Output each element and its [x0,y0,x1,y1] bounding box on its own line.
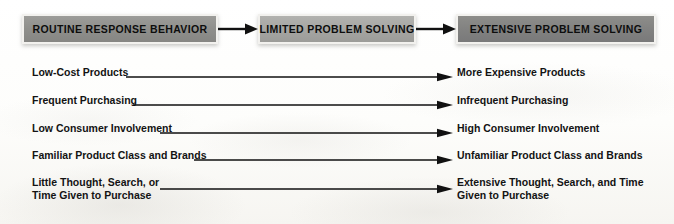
attribute-arrow [160,180,453,190]
stage-box-limited-problem-solving[interactable]: LIMITED PROBLEM SOLVING [258,14,416,44]
attribute-left-label: Frequent Purchasing [32,94,137,107]
connector-routine-to-limited [218,22,258,36]
stage-label: ROUTINE RESPONSE BEHAVIOR [33,24,208,35]
attribute-left-label: Familiar Product Class and Brands [32,149,206,162]
problem-solving-continuum-diagram: ROUTINE RESPONSE BEHAVIOR LIMITED PROBLE… [0,0,674,224]
arrow-right-icon [416,22,456,36]
attribute-row: Frequent Purchasing Infrequent Purchasin… [0,94,674,110]
attribute-row: Low-Cost Products More Expensive Product… [0,66,674,82]
stage-box-extensive-problem-solving[interactable]: EXTENSIVE PROBLEM SOLVING [456,14,656,44]
arrow-right-icon [218,22,258,36]
arrow-right-icon [133,100,453,110]
stage-box-routine-response-behavior[interactable]: ROUTINE RESPONSE BEHAVIOR [22,14,218,44]
attribute-arrow [194,151,453,161]
attribute-left-label: Low-Cost Products [32,66,128,79]
stage-label: EXTENSIVE PROBLEM SOLVING [470,24,643,35]
arrow-right-icon [160,128,453,138]
stage-label: LIMITED PROBLEM SOLVING [260,24,415,35]
attribute-right-label: More Expensive Products [457,66,585,79]
attribute-row: Familiar Product Class and Brands Unfami… [0,149,674,165]
arrow-right-icon [160,184,453,194]
stage-band: ROUTINE RESPONSE BEHAVIOR LIMITED PROBLE… [0,0,674,58]
connector-limited-to-extensive [416,22,456,36]
attribute-left-label: Low Consumer Involvement [32,122,172,135]
attribute-row: Little Thought, Search, or Time Given to… [0,178,674,208]
attribute-arrow [126,68,453,78]
attribute-rows: Low-Cost Products More Expensive Product… [0,58,674,224]
attribute-arrow [160,124,453,134]
attribute-right-label: Extensive Thought, Search, and Time Give… [457,176,644,201]
attribute-arrow [133,96,453,106]
attribute-left-label: Little Thought, Search, or Time Given to… [32,176,159,201]
attribute-right-label: Infrequent Purchasing [457,94,568,107]
arrow-right-icon [126,72,453,82]
attribute-right-label: High Consumer Involvement [457,122,599,135]
attribute-right-label: Unfamiliar Product Class and Brands [457,149,643,162]
attribute-row: Low Consumer Involvement High Consumer I… [0,122,674,138]
arrow-right-icon [194,155,453,165]
